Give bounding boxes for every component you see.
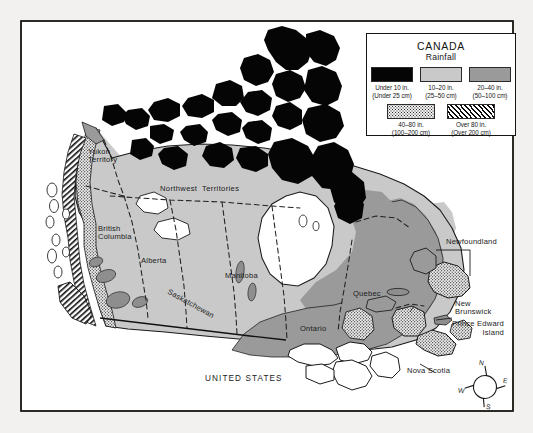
province-label-manitoba: Manitoba bbox=[225, 272, 258, 280]
compass-label-west: W bbox=[458, 387, 465, 395]
province-label-quebec: Quebec bbox=[353, 290, 381, 298]
legend-entry-40-80: 40–80 in.(100–200 cm) bbox=[387, 104, 435, 137]
province-label-northwest-territories: Northwest Territories bbox=[160, 185, 239, 193]
province-label-newfoundland: Newfoundland bbox=[446, 238, 497, 246]
legend-caption-under-10: Under 10 in.(Under 25 cm) bbox=[371, 84, 413, 100]
province-label-british-columbia: BritishColumbia bbox=[98, 225, 132, 241]
legend-entry-under-10: Under 10 in.(Under 25 cm) bbox=[371, 67, 413, 100]
legend-swatch-mid-gray bbox=[469, 67, 511, 82]
legend-entry-20-40: 20–40 in.(50–100 cm) bbox=[469, 67, 511, 100]
legend-entry-10-20: 10–20 in.(25–50 cm) bbox=[420, 67, 462, 100]
province-label-prince-edward-island: Prince EdwardIsland bbox=[452, 320, 504, 337]
legend-caption-20-40: 20–40 in.(50–100 cm) bbox=[469, 84, 511, 100]
compass-label-north: N bbox=[479, 359, 485, 367]
legend-swatch-light-gray bbox=[420, 67, 462, 82]
map-canvas: YukonTerritory Northwest Territories Bri… bbox=[0, 0, 533, 433]
legend-subtitle: Rainfall bbox=[367, 52, 515, 62]
anticosti-island bbox=[387, 288, 409, 295]
compass-label-south: S bbox=[486, 403, 491, 411]
compass-label-east: E bbox=[503, 377, 508, 385]
legend-swatch-stipple bbox=[387, 104, 435, 119]
legend-swatch-black bbox=[371, 67, 413, 82]
legend-caption-over-80: Over 80 in.(Over 200 cm) bbox=[447, 121, 495, 137]
map-legend: CANADA Rainfall Under 10 in.(Under 25 cm… bbox=[366, 33, 516, 136]
country-label-united-states: UNITED STATES bbox=[205, 375, 283, 384]
legend-row-top: Under 10 in.(Under 25 cm) 10–20 in.(25–5… bbox=[367, 67, 515, 100]
province-label-alberta: Alberta bbox=[141, 257, 166, 265]
compass-rose: N E S W bbox=[457, 357, 513, 415]
province-label-yukon: YukonTerritory bbox=[88, 148, 117, 164]
legend-caption-40-80: 40–80 in.(100–200 cm) bbox=[387, 121, 435, 137]
province-label-new-brunswick: NewBrunswick bbox=[455, 300, 491, 317]
province-label-ontario: Ontario bbox=[300, 325, 326, 333]
legend-entry-over-80: Over 80 in.(Over 200 cm) bbox=[447, 104, 495, 137]
legend-caption-10-20: 10–20 in.(25–50 cm) bbox=[420, 84, 462, 100]
province-label-nova-scotia: Nova Scotia bbox=[407, 367, 450, 375]
legend-swatch-hatch bbox=[447, 104, 495, 119]
legend-row-bottom: 40–80 in.(100–200 cm) Over 80 in.(Over 2… bbox=[367, 104, 515, 137]
legend-title: CANADA bbox=[367, 40, 515, 52]
